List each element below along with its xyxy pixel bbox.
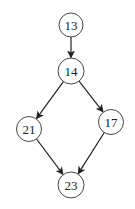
node-21: 21 xyxy=(17,117,42,142)
node-label: 13 xyxy=(65,18,78,33)
edge-14-to-21 xyxy=(37,82,64,119)
node-17: 17 xyxy=(99,110,124,135)
node-label: 21 xyxy=(23,122,36,137)
node-label: 14 xyxy=(65,64,79,79)
node-23: 23 xyxy=(58,172,84,198)
node-label: 17 xyxy=(105,115,119,130)
node-label: 23 xyxy=(65,178,78,193)
node-14: 14 xyxy=(58,58,84,84)
graph-diagram: 13 14 21 17 23 xyxy=(0,0,135,209)
edge-17-to-23 xyxy=(78,133,104,174)
nodes-layer: 13 14 21 17 23 xyxy=(17,13,124,198)
edge-14-to-17 xyxy=(79,81,103,112)
edge-21-to-23 xyxy=(37,139,63,174)
node-13: 13 xyxy=(59,13,83,37)
